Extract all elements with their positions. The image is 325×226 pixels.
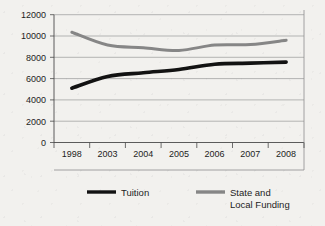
chart-canvas: 12000 10000 8000 6000 4000 2000 0 xyxy=(0,0,325,226)
x-tick-label: 2003 xyxy=(97,149,117,159)
line-chart-figure: 12000 10000 8000 6000 4000 2000 0 xyxy=(0,0,325,226)
x-axis-tickmarks xyxy=(54,143,304,149)
x-tick-label: 1998 xyxy=(62,149,82,159)
y-tick-label: 2000 xyxy=(26,117,46,127)
legend-label-tuition: Tuition xyxy=(121,187,149,198)
x-tick-label: 2006 xyxy=(205,149,225,159)
legend-label-funding-line2: Local Funding xyxy=(230,199,290,210)
series-line-tuition xyxy=(72,62,286,88)
y-tick-label: 6000 xyxy=(26,74,46,84)
x-axis-tick-labels: 1998 2003 2004 2005 2006 2007 2008 xyxy=(62,149,296,159)
x-tick-label: 2004 xyxy=(133,149,153,159)
data-series-group xyxy=(72,32,286,88)
legend-item-tuition[interactable]: Tuition xyxy=(87,187,149,198)
y-tick-label: 10000 xyxy=(21,31,46,41)
y-tick-label: 4000 xyxy=(26,95,46,105)
axis-lines xyxy=(54,10,304,170)
chart-legend: Tuition State and Local Funding xyxy=(87,187,290,211)
legend-label-funding-line1: State and xyxy=(230,187,271,198)
x-tick-label: 2007 xyxy=(240,149,260,159)
x-tick-label: 2005 xyxy=(169,149,189,159)
x-tick-label: 2008 xyxy=(276,149,296,159)
y-axis-tickmarks xyxy=(50,15,54,143)
series-line-state-and-local-funding xyxy=(72,32,286,50)
legend-item-state-and-local-funding[interactable]: State and Local Funding xyxy=(196,187,290,211)
y-tick-label: 12000 xyxy=(21,10,46,20)
y-tick-label: 8000 xyxy=(26,53,46,63)
y-axis-tick-labels: 12000 10000 8000 6000 4000 2000 0 xyxy=(21,10,46,148)
y-tick-label: 0 xyxy=(41,138,46,148)
